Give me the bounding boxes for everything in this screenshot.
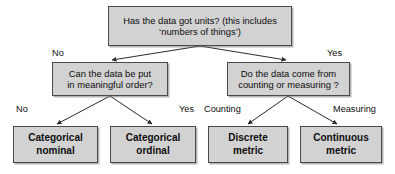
edge-label-order-yes: Yes xyxy=(179,104,194,114)
edge-root-no xyxy=(112,46,200,60)
node-source-label: Do the data come from counting or measur… xyxy=(235,68,342,91)
node-discrete-metric: Discrete metric xyxy=(208,126,288,163)
decision-tree-diagram: Has the data got units? (this includes ‘… xyxy=(0,0,395,174)
node-source-question: Do the data come from counting or measur… xyxy=(227,62,350,96)
edge-label-source-measuring: Measuring xyxy=(333,104,376,114)
edge-label-root-no: No xyxy=(52,48,64,58)
edge-source-counting xyxy=(248,96,288,124)
node-order-question: Can the data be put in meaningful order? xyxy=(52,62,168,96)
node-categorical-ordinal: Categorical ordinal xyxy=(110,126,196,163)
node-continuous-metric: Continuous metric xyxy=(300,126,382,163)
node-categorical-nominal-label: Categorical nominal xyxy=(25,132,85,156)
edge-root-yes xyxy=(200,46,286,60)
edge-label-source-counting: Counting xyxy=(204,104,241,114)
node-root-label: Has the data got units? (this includes ‘… xyxy=(120,15,280,38)
node-categorical-nominal: Categorical nominal xyxy=(13,126,98,163)
edge-source-measuring xyxy=(288,96,337,124)
edge-label-order-no: No xyxy=(16,104,28,114)
node-categorical-ordinal-label: Categorical ordinal xyxy=(123,132,183,156)
edge-order-yes xyxy=(110,96,152,124)
node-order-label: Can the data be put in meaningful order? xyxy=(64,68,155,91)
edge-label-root-yes: Yes xyxy=(327,48,342,58)
edge-order-no xyxy=(57,96,110,124)
node-continuous-metric-label: Continuous metric xyxy=(310,132,372,156)
node-root-question: Has the data got units? (this includes ‘… xyxy=(108,6,292,46)
node-discrete-metric-label: Discrete metric xyxy=(225,132,270,156)
